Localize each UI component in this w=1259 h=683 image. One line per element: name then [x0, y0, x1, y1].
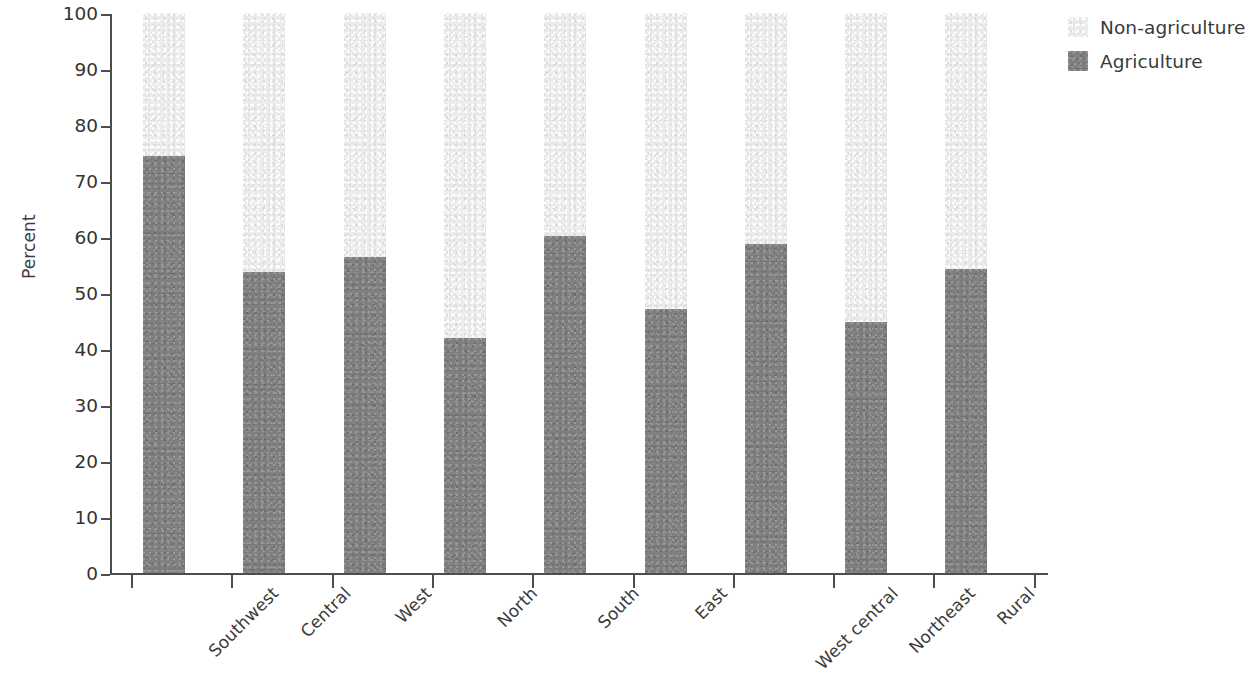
bar-segment-non-agriculture[interactable] [645, 13, 687, 309]
legend-label: Agriculture [1100, 51, 1203, 72]
y-axis-tick-label: 70 [52, 173, 98, 192]
y-axis-tick-labels: 0102030405060708090100 [40, 0, 98, 683]
legend-swatch-icon [1068, 51, 1088, 71]
x-axis-tick [833, 575, 835, 588]
bar-group[interactable] [143, 13, 185, 573]
x-axis-tick-label: West central [811, 583, 901, 673]
bar-group[interactable] [243, 13, 285, 573]
y-axis-tick [101, 70, 110, 72]
x-axis-tick [1034, 575, 1036, 588]
x-axis-tick [432, 575, 434, 588]
x-axis-tick-label: West [391, 583, 435, 627]
bar-group[interactable] [745, 13, 787, 573]
bar-group[interactable] [945, 13, 987, 573]
x-axis-line [110, 573, 1048, 575]
x-axis-tick [131, 575, 133, 588]
bar-segment-agriculture[interactable] [544, 236, 586, 573]
x-axis-tick-label: Rural [993, 583, 1039, 629]
x-axis-tick [933, 575, 935, 588]
y-axis-tick [101, 294, 110, 296]
y-axis-tick-label: 40 [52, 341, 98, 360]
y-axis-tick-label: 100 [52, 5, 98, 24]
bar-segment-non-agriculture[interactable] [444, 13, 486, 338]
x-axis-tick-label: Southwest [204, 583, 282, 661]
stacked-bar-chart: Percent 0102030405060708090100 Southwest… [0, 0, 1259, 683]
bar-segment-agriculture[interactable] [845, 322, 887, 573]
legend-label: Non-agriculture [1100, 17, 1245, 38]
legend-swatch-icon [1068, 17, 1088, 37]
x-axis-tick [532, 575, 534, 588]
y-axis-tick-label: 30 [52, 397, 98, 416]
bar-segment-non-agriculture[interactable] [845, 13, 887, 322]
legend-item[interactable]: Agriculture [1068, 44, 1258, 78]
bar-segment-non-agriculture[interactable] [344, 13, 386, 257]
bar-group[interactable] [645, 13, 687, 573]
bar-segment-non-agriculture[interactable] [544, 13, 586, 236]
plot-area [110, 14, 1047, 574]
y-axis-tick-label: 0 [52, 565, 98, 584]
x-axis-tick-label: North [493, 583, 541, 631]
x-axis-tick [733, 575, 735, 588]
bar-group[interactable] [344, 13, 386, 573]
bar-group[interactable] [544, 13, 586, 573]
y-axis-tick [101, 238, 110, 240]
y-axis-tick-label: 50 [52, 285, 98, 304]
y-axis-tick [101, 518, 110, 520]
bar-segment-agriculture[interactable] [745, 244, 787, 573]
bar-group[interactable] [845, 13, 887, 573]
y-axis-tick-label: 10 [52, 509, 98, 528]
x-axis-tick [231, 575, 233, 588]
y-axis-tick [101, 574, 110, 576]
y-axis-tick-label: 80 [52, 117, 98, 136]
x-axis-tick-label: East [690, 583, 730, 623]
y-axis-tick [101, 406, 110, 408]
y-axis-tick-label: 20 [52, 453, 98, 472]
x-axis-tick-label: South [594, 583, 643, 632]
chart-legend: Non-agricultureAgriculture [1068, 10, 1258, 78]
x-axis-tick-label: Northeast [905, 583, 979, 657]
x-axis-tick-label: Central [297, 583, 355, 641]
y-axis-tick [101, 126, 110, 128]
y-axis-tick [101, 350, 110, 352]
legend-item[interactable]: Non-agriculture [1068, 10, 1258, 44]
bar-segment-agriculture[interactable] [243, 272, 285, 573]
bar-segment-non-agriculture[interactable] [243, 13, 285, 272]
y-axis-tick-label: 60 [52, 229, 98, 248]
bar-segment-agriculture[interactable] [444, 338, 486, 573]
bar-segment-non-agriculture[interactable] [945, 13, 987, 269]
bar-segment-agriculture[interactable] [344, 257, 386, 573]
y-axis-tick [101, 182, 110, 184]
bar-segment-non-agriculture[interactable] [745, 13, 787, 244]
bar-segment-agriculture[interactable] [945, 269, 987, 573]
bar-segment-agriculture[interactable] [143, 156, 185, 573]
y-axis-tick [101, 14, 110, 16]
y-axis-tick-label: 90 [52, 61, 98, 80]
x-axis-tick [332, 575, 334, 588]
y-axis-line [110, 14, 112, 575]
bar-group[interactable] [444, 13, 486, 573]
bar-segment-agriculture[interactable] [645, 309, 687, 573]
bar-segment-non-agriculture[interactable] [143, 13, 185, 156]
y-axis-tick [101, 462, 110, 464]
